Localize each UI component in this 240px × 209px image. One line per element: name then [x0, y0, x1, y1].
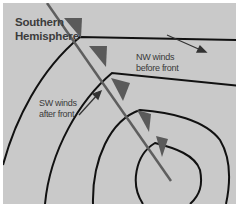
nw-label-line-2: before front [136, 63, 178, 74]
title-line-2: Hemisphere [15, 29, 79, 43]
front-triangle-2 [89, 46, 107, 67]
isobar-4 [136, 143, 201, 204]
hemisphere-title: Southern Hemisphere [15, 15, 79, 43]
nw-label-line-1: NW winds [136, 52, 178, 63]
nw-wind-arrowhead [197, 46, 206, 52]
nw-wind-arrow [167, 35, 203, 51]
sw-label-line-2: after front [39, 109, 77, 120]
sw-label-line-1: SW winds [39, 98, 77, 109]
diagram-panel: Southern Hemisphere NW winds before fron… [3, 3, 236, 204]
front-triangle-4 [137, 110, 151, 132]
nw-winds-label: NW winds before front [136, 52, 178, 73]
isobar-3 [93, 110, 229, 204]
isobar-1 [3, 37, 236, 165]
sw-winds-label: SW winds after front [39, 98, 77, 119]
isobars [3, 37, 236, 204]
title-line-1: Southern [15, 15, 79, 29]
